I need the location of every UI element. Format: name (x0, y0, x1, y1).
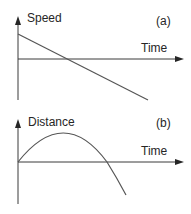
panel-a-speed-line (18, 34, 148, 100)
panel-b-distance-curve (18, 133, 126, 195)
panel-b-tag: (b) (156, 117, 171, 130)
panel-b-y-arrow-icon (15, 119, 21, 128)
panel-a-tag: (a) (156, 15, 171, 28)
panel-a-x-arrow-icon (175, 56, 184, 62)
panel-b-x-arrow-icon (175, 159, 184, 165)
panel-a-y-arrow-icon (15, 16, 21, 25)
panel-a-x-label: Time (141, 42, 167, 55)
panel-b (15, 119, 184, 204)
panel-a (15, 16, 184, 100)
diagram-canvas (0, 0, 191, 214)
panel-a-y-label: Speed (27, 12, 62, 25)
panel-b-x-label: Time (141, 145, 167, 158)
panel-b-y-label: Distance (28, 116, 75, 129)
